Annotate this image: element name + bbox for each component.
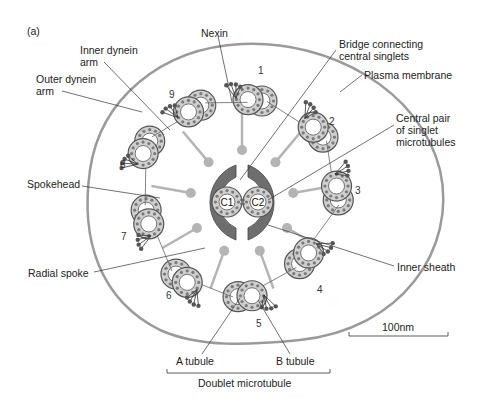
tubulin-subunit (164, 267, 167, 270)
tubulin-subunit (297, 257, 300, 260)
tubulin-subunit (345, 179, 348, 182)
label-central-pair-line1: Central pair (396, 112, 450, 124)
doublet-number-4: 4 (317, 284, 323, 295)
label-nexin: Nexin (201, 27, 228, 39)
tubulin-subunit (256, 212, 259, 215)
tubulin-subunit (245, 284, 248, 287)
tubulin-subunit (176, 275, 179, 278)
tubulin-subunit (226, 289, 229, 292)
dynein-arm-head (196, 304, 200, 308)
radial-spoke (162, 228, 197, 248)
tubulin-subunit (139, 199, 142, 202)
label-bridge-line2: central singlets (339, 50, 409, 62)
tubulin-subunit (174, 281, 177, 284)
tubulin-subunit (205, 94, 208, 97)
tubulin-subunit (226, 301, 229, 304)
tubulin-subunit (141, 212, 144, 215)
tubulin-subunit (225, 295, 228, 298)
spokehead (237, 145, 247, 155)
tubulin-subunit (266, 195, 269, 198)
dynein-arm-head (311, 106, 315, 110)
tubulin-subunit (347, 204, 350, 207)
tubulin-subunit (335, 196, 338, 199)
doublet-number-5: 5 (256, 318, 262, 329)
tubulin-subunit (313, 261, 316, 264)
tubulin-subunit (295, 251, 298, 254)
tubulin-subunit (325, 190, 328, 193)
tubulin-subunit (256, 304, 259, 307)
dynein-arm-head (343, 159, 347, 163)
dynein-arm-head (136, 242, 140, 246)
radial-spoke (260, 251, 274, 289)
tubulin-subunit (191, 271, 194, 274)
tubulin-subunit (260, 88, 263, 91)
label-inner-sheath: Inner sheath (397, 261, 455, 273)
tubulin-subunit (322, 120, 325, 123)
tubulin-subunit (205, 114, 208, 117)
doublet-number-1: 1 (258, 65, 264, 76)
tubulin-subunit (288, 256, 291, 259)
tubulin-subunit (215, 195, 218, 198)
dynein-arm-head (168, 104, 172, 108)
tubulin-subunit (142, 163, 145, 166)
tubulin-subunit (246, 206, 249, 209)
tubulin-subunit (329, 194, 332, 197)
radial-spoke (151, 186, 190, 193)
leader-plasma-membrane (340, 75, 362, 92)
tubulin-subunit (130, 152, 133, 155)
label-b-tubule: B tubule (276, 355, 315, 367)
tubulin-subunit (256, 284, 259, 287)
label-plasma-membrane: Plasma membrane (364, 69, 452, 81)
tubulin-subunit (333, 136, 336, 139)
tubulin-subunit (317, 135, 320, 138)
tubulin-subunit (187, 99, 190, 102)
tubulin-subunit (246, 110, 249, 113)
tubulin-subunit (307, 240, 310, 243)
dynein-arm-head (136, 238, 140, 242)
dynein-arm-head (126, 154, 130, 158)
tubulin-subunit (153, 152, 156, 155)
tubulin-subunit (262, 210, 265, 213)
tubulin-subunit (157, 217, 160, 220)
tubulin-subunit (147, 162, 150, 165)
dynein-arm-head (308, 102, 312, 106)
tubulin-subunit (235, 195, 238, 198)
dynein-arm-head (313, 110, 317, 114)
tubulin-subunit (270, 94, 273, 97)
tubulin-subunit (329, 174, 332, 177)
tubulin-subunit (147, 142, 150, 145)
tubulin-subunit (348, 198, 351, 201)
tubulin-subunit (260, 111, 263, 114)
tubulin-subunit (317, 257, 320, 260)
tubulin-subunit (180, 262, 183, 265)
tubulin-subunit (142, 140, 145, 143)
tubulin-subunit (133, 209, 136, 212)
tubulin-subunit (262, 190, 265, 193)
doublet-number-2: 2 (329, 116, 335, 127)
label-inner-dynein-arm-line1: Inner dynein (80, 44, 138, 56)
tubulin-subunit (266, 206, 269, 209)
tubulin-subunit (181, 100, 184, 103)
tubulin-subunit (260, 288, 263, 291)
radial-spoke (211, 251, 225, 289)
tubulin-subunit (250, 306, 253, 309)
axoneme-cross-section: C1C2 (0, 0, 485, 406)
leader-a-tubule (202, 298, 240, 354)
tubulin-subunit (341, 194, 344, 197)
spokehead (270, 157, 280, 167)
tubulin-subunit (256, 92, 259, 95)
tubulin-subunit (220, 190, 223, 193)
tubulin-subunit (286, 262, 289, 265)
tubulin-subunit (209, 109, 212, 112)
tubulin-subunit (306, 135, 309, 138)
dynein-arm-head (264, 306, 268, 310)
dynein-arm-head (304, 100, 308, 104)
dynein-arm-head (192, 302, 196, 306)
tubulin-subunit (197, 281, 200, 284)
tubulin-subunit (292, 272, 295, 275)
tubulin-subunit (246, 195, 249, 198)
dynein-arm-head (330, 241, 334, 245)
tubulin-subunit (298, 274, 301, 277)
dynein-arm-head (326, 249, 330, 253)
tubulin-subunit (235, 98, 238, 101)
